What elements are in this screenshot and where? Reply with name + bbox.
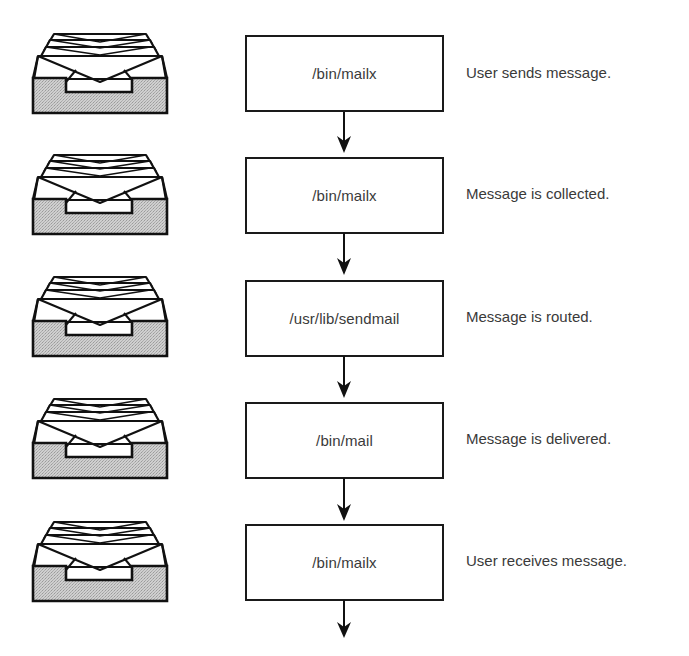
process-label: /bin/mailx [312,187,376,204]
arrow-down-icon [336,233,352,276]
flow-arrow-3 [336,356,352,399]
step-description-5: User receives message. [466,552,627,570]
process-box-3: /usr/lib/sendmail [245,280,444,357]
flow-arrow-4 [336,478,352,522]
process-label: /bin/mailx [312,65,376,82]
process-box-4: /bin/mail [245,402,444,479]
mail-tray-icon [30,518,170,604]
arrow-down-icon [336,600,352,640]
step-description-1: User sends message. [466,64,611,82]
flow-arrow-2 [336,233,352,276]
flow-arrow-1 [336,112,352,154]
arrow-down-icon [336,356,352,399]
process-box-1: /bin/mailx [245,35,444,112]
process-label: /usr/lib/sendmail [289,310,399,327]
mail-flow-diagram: /bin/mailx User sends message. /bin/mail… [0,0,689,656]
step-description-4: Message is delivered. [466,430,611,448]
step-description-3: Message is routed. [466,308,593,326]
arrow-down-icon [336,478,352,522]
process-label: /bin/mailx [312,554,376,571]
process-label: /bin/mail [316,432,373,449]
process-box-2: /bin/mailx [245,157,444,234]
flow-arrow-5 [336,600,352,640]
arrow-down-icon [336,112,352,154]
mail-tray-icon [30,395,170,481]
mail-tray-icon [30,151,170,237]
mail-tray-icon [30,30,170,116]
step-description-2: Message is collected. [466,185,609,203]
process-box-5: /bin/mailx [245,524,444,601]
mail-tray-icon [30,273,170,359]
